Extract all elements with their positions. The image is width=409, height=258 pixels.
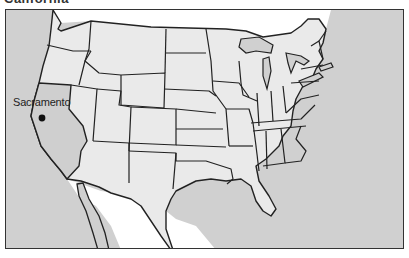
map-frame: [5, 9, 404, 249]
map-title: California: [4, 0, 69, 6]
capital-marker-dot: [39, 115, 46, 122]
capital-label-sacramento: Sacramento: [13, 96, 70, 108]
us-map: [5, 9, 404, 249]
